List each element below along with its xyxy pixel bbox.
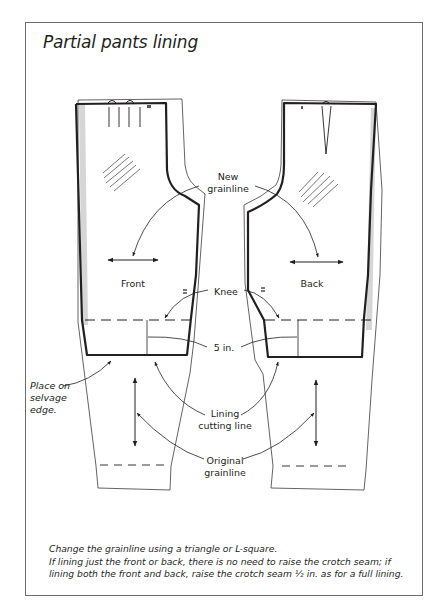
label-new-grainline: New grainline — [203, 171, 253, 195]
label-selvage-line1: Place on — [30, 380, 90, 392]
label-original-line1: Original — [197, 455, 253, 467]
label-knee: Knee — [206, 286, 246, 298]
label-selvage-edge: Place on selvage edge. — [30, 380, 90, 416]
label-new-grainline-line1: New — [203, 171, 253, 183]
label-lining-line1: Lining — [195, 408, 255, 420]
back-pattern-piece — [244, 100, 382, 490]
figure-caption: Change the grainline using a triangle or… — [49, 543, 419, 581]
label-back: Back — [292, 278, 332, 290]
pants-lining-diagram — [0, 0, 432, 610]
label-five-inches: 5 in. — [206, 342, 242, 354]
label-lining-cutting-line: Lining cutting line — [195, 408, 255, 432]
label-selvage-line2: selvage — [30, 392, 90, 404]
label-new-grainline-line2: grainline — [203, 183, 253, 195]
caption-line-1: Change the grainline using a triangle or… — [49, 543, 419, 556]
label-selvage-line3: edge. — [30, 404, 90, 416]
front-pattern-piece — [76, 99, 205, 490]
label-lining-line2: cutting line — [195, 420, 255, 432]
label-original-grainline: Original grainline — [197, 455, 253, 479]
label-front: Front — [113, 278, 153, 290]
caption-line-3: lining both the front and back, raise th… — [49, 568, 419, 581]
label-original-line2: grainline — [197, 467, 253, 479]
caption-line-2: If lining just the front or back, there … — [49, 556, 419, 569]
